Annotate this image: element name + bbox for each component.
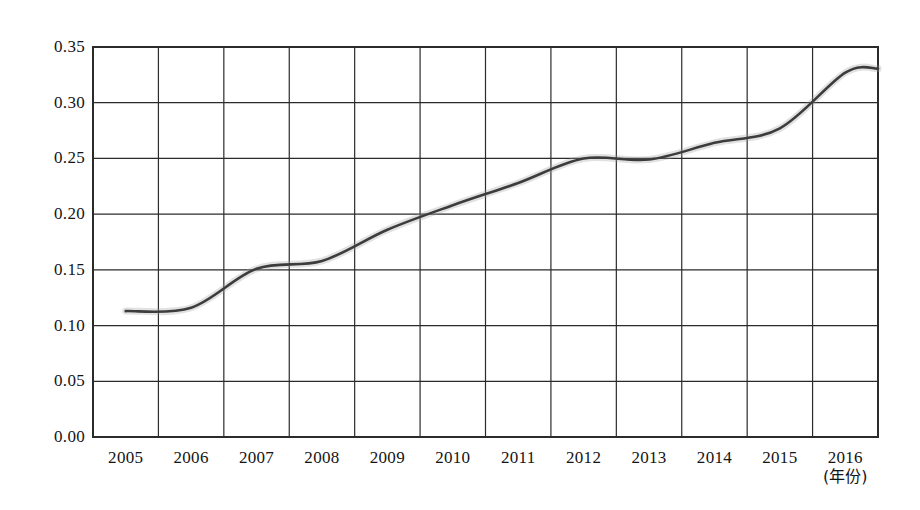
y-axis-tick-label: 0.00 [25, 428, 85, 445]
grid-lines [93, 47, 878, 437]
y-axis-tick-label: 0.15 [25, 261, 85, 278]
line-chart: 0.000.050.100.150.200.250.300.35 2005200… [0, 0, 920, 510]
plot-area [0, 0, 920, 510]
y-axis-tick-label: 0.35 [25, 38, 85, 55]
y-axis-tick-label: 0.20 [25, 205, 85, 222]
y-axis-tick-label: 0.10 [25, 317, 85, 334]
y-axis-tick-label: 0.25 [25, 149, 85, 166]
y-axis-tick-label: 0.30 [25, 94, 85, 111]
y-axis-tick-label: 0.05 [25, 372, 85, 389]
x-axis-unit-label: (年份) [800, 468, 890, 486]
x-axis-tick-label: 2016 [805, 448, 885, 467]
